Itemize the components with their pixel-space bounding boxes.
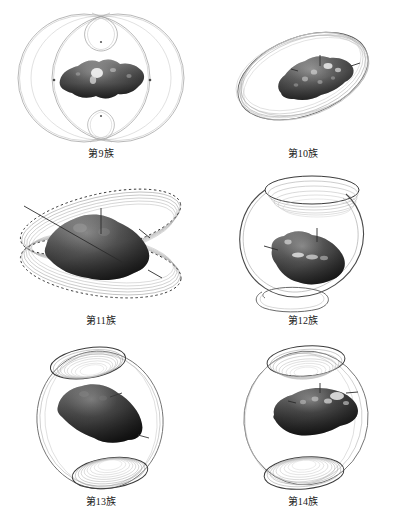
panel-14-asteroid-body — [273, 388, 358, 436]
figure-panel-13: 第13族 — [0, 340, 202, 522]
panel-9-top-loop — [85, 13, 118, 51]
panel-14-bottom-spiral-cap — [263, 454, 345, 493]
figure-panel-10: 第10族 — [202, 0, 404, 172]
panel-13-top-spiral-cap — [48, 342, 128, 384]
panel-12-caption: 第12族 — [202, 315, 404, 327]
panel-13-diagram — [0, 340, 202, 498]
panel-10-diagram — [202, 0, 404, 148]
figure-panel-9: 第9族 — [0, 0, 202, 172]
figure-panel-11: 第11族 — [0, 172, 202, 340]
panel-9-caption: 第9族 — [0, 148, 202, 160]
panel-9-top-marker-dot — [100, 41, 102, 43]
panel-12-diagram — [202, 172, 404, 317]
panel-14-diagram — [202, 340, 404, 498]
panel-11-diagram — [0, 172, 202, 317]
figure-panel-12: 第12族 — [202, 172, 404, 340]
panel-9-left-marker-dot — [53, 79, 56, 82]
panel-14-caption: 第14族 — [202, 496, 404, 508]
panel-12-bottom-crossing-loop — [256, 287, 328, 312]
panel-10-caption: 第10族 — [202, 148, 404, 160]
panel-13-asteroid-body — [57, 384, 142, 443]
panel-9-right-marker-dot — [149, 79, 152, 82]
panel-11-caption: 第11族 — [0, 315, 202, 327]
figure-panel-14: 第14族 — [202, 340, 404, 522]
figure-panel-grid: 第9族 — [0, 0, 404, 522]
panel-12-asteroid-body — [272, 231, 345, 284]
panel-10-asteroid-body — [278, 56, 353, 100]
panel-13-caption: 第13族 — [0, 496, 202, 508]
panel-9-diagram — [0, 0, 202, 148]
panel-9-bottom-marker-dot — [100, 115, 102, 117]
panel-12-top-ring-cap — [265, 176, 359, 217]
panel-9-asteroid-body — [60, 60, 145, 99]
